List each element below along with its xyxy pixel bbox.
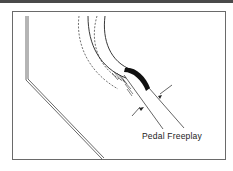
freeplay-lines bbox=[124, 75, 184, 129]
pedal-arm-dashed bbox=[78, 16, 125, 89]
floor-panel bbox=[26, 16, 104, 159]
pedal-freeplay-label: Pedal Freeplay bbox=[142, 131, 202, 141]
pedal-diagram bbox=[0, 0, 233, 171]
stopper-hatch bbox=[112, 72, 133, 96]
arrow-icon bbox=[158, 95, 162, 99]
